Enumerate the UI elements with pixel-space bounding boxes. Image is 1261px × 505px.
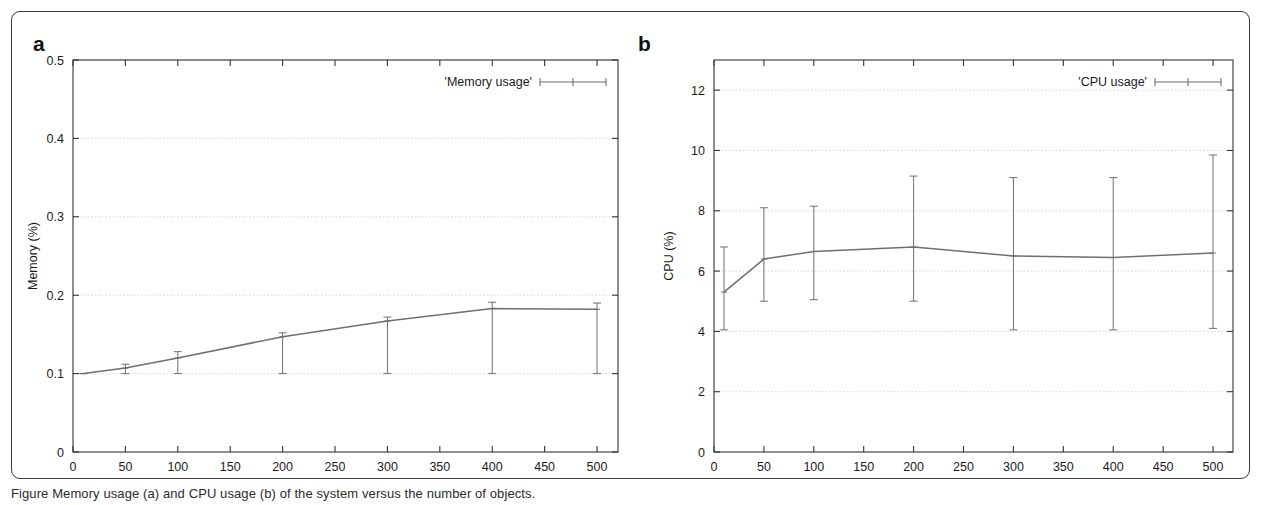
x-tick-label: 200 (903, 460, 924, 474)
figure-caption: Figure Memory usage (a) and CPU usage (b… (11, 487, 1250, 505)
y-tick-label: 6 (698, 265, 705, 279)
x-tick-label: 0 (711, 460, 718, 474)
x-tick-label: 450 (534, 460, 555, 474)
y-tick-label: 0.4 (47, 132, 64, 146)
x-tick-label: 150 (220, 460, 241, 474)
y-tick-label: 8 (698, 204, 705, 218)
error-bar (910, 176, 918, 301)
error-bar (1209, 155, 1217, 328)
error-bar (720, 247, 728, 330)
y-tick-label: 0 (698, 446, 705, 460)
y-tick-label: 0.2 (47, 289, 64, 303)
x-tick-label: 50 (757, 460, 771, 474)
y-tick-label: 12 (691, 84, 705, 98)
x-tick-label: 250 (953, 460, 974, 474)
figure-container: a 00.10.20.30.40.50501001502002503003504… (0, 0, 1261, 505)
y-tick-label: 2 (698, 385, 705, 399)
y-tick-label: 10 (691, 144, 705, 158)
x-tick-label: 400 (1103, 460, 1124, 474)
cpu-usage-chart: 024681012050100150200250300350400450500N… (631, 11, 1250, 479)
x-tick-label: 300 (1003, 460, 1024, 474)
error-bar (593, 303, 601, 374)
y-tick-label: 4 (698, 325, 705, 339)
memory-usage-panel: a 00.10.20.30.40.50501001502002503003504… (11, 11, 631, 479)
y-axis-title: Memory (%) (26, 222, 40, 290)
y-axis-title: CPU (%) (662, 231, 676, 280)
memory-usage-chart: 00.10.20.30.40.5050100150200250300350400… (11, 11, 631, 479)
x-tick-label: 150 (853, 460, 874, 474)
error-bar (760, 208, 768, 301)
legend-label: 'Memory usage' (445, 75, 532, 89)
error-bar (279, 333, 287, 374)
x-tick-label: 400 (482, 460, 503, 474)
plot-frame (73, 60, 618, 452)
x-tick-label: 500 (587, 460, 608, 474)
y-tick-label: 0 (57, 446, 64, 460)
x-tick-label: 0 (70, 460, 77, 474)
x-tick-label: 350 (1053, 460, 1074, 474)
error-bar (488, 302, 496, 373)
x-tick-label: 300 (377, 460, 398, 474)
x-tick-label: 500 (1203, 460, 1224, 474)
error-bar (383, 317, 391, 373)
error-bar (1109, 178, 1117, 330)
x-tick-label: 100 (167, 460, 188, 474)
figure-caption-text: Figure Memory usage (a) and CPU usage (b… (11, 487, 535, 501)
legend-label: 'CPU usage' (1078, 75, 1147, 89)
cpu-usage-panel: b 02468101205010015020025030035040045050… (631, 11, 1250, 479)
error-bar (810, 206, 818, 299)
x-tick-label: 350 (429, 460, 450, 474)
y-tick-label: 0.1 (47, 367, 64, 381)
x-tick-label: 250 (325, 460, 346, 474)
y-tick-label: 0.5 (47, 54, 64, 68)
y-tick-label: 0.3 (47, 210, 64, 224)
error-bar (174, 352, 182, 374)
x-tick-label: 50 (118, 460, 132, 474)
x-tick-label: 450 (1153, 460, 1174, 474)
data-series-line (724, 247, 1213, 292)
x-tick-label: 100 (803, 460, 824, 474)
error-bar (1009, 178, 1017, 330)
x-tick-label: 200 (272, 460, 293, 474)
data-series-line (83, 309, 597, 374)
